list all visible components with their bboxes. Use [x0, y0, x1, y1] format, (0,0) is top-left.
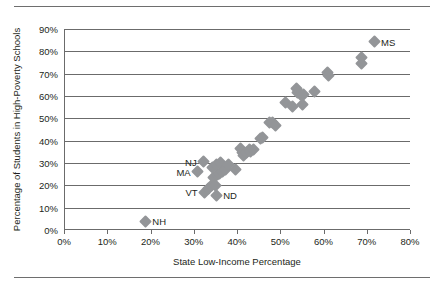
y-tick-label: 60% — [39, 91, 58, 102]
x-tick-label: 70% — [357, 236, 376, 247]
y-tick-label: 0% — [44, 225, 58, 236]
gridline-y-20% — [64, 185, 410, 186]
y-tick-label: 20% — [39, 180, 58, 191]
gridline-y-80% — [64, 51, 410, 52]
x-tick-mark — [237, 230, 238, 234]
x-tick-mark — [64, 230, 65, 234]
plot-area: 0%10%20%30%40%50%60%70%80%90% 0%10%20%30… — [64, 29, 410, 230]
data-point-label-ND: ND — [223, 190, 237, 201]
x-tick-mark — [107, 230, 108, 234]
y-tick-label: 80% — [39, 46, 58, 57]
x-tick-mark — [324, 230, 325, 234]
x-tick-label: 60% — [314, 236, 333, 247]
x-axis-title-text: State Low-Income Percentage — [173, 256, 301, 267]
x-tick-mark — [194, 230, 195, 234]
x-tick-label: 50% — [271, 236, 290, 247]
y-tick-label: 70% — [39, 68, 58, 79]
data-point-label-MA: MA — [176, 166, 190, 177]
x-tick-mark — [151, 230, 152, 234]
gridline-y-90% — [64, 29, 410, 30]
gridline-y-70% — [64, 74, 410, 75]
y-axis-title-text: Percentage of Students in High-Poverty S… — [12, 28, 23, 231]
x-tick-mark — [410, 230, 411, 234]
bottom-divider-rule — [14, 277, 430, 278]
y-tick-label: 50% — [39, 113, 58, 124]
y-tick-label: 10% — [39, 202, 58, 213]
gridline-y-40% — [64, 141, 410, 142]
data-point-label-NH: NH — [152, 216, 166, 227]
chart-figure: Percentage of Students in High-Poverty S… — [0, 0, 443, 288]
x-tick-label: 20% — [141, 236, 160, 247]
data-point-NH[interactable] — [139, 215, 152, 228]
x-tick-label: 80% — [400, 236, 419, 247]
data-point-label-VT: VT — [185, 187, 197, 198]
data-point-label-MS: MS — [381, 36, 395, 47]
data-point-MS[interactable] — [368, 35, 381, 48]
y-tick-label: 40% — [39, 135, 58, 146]
x-tick-mark — [367, 230, 368, 234]
y-axis-line — [64, 29, 65, 230]
top-divider-rule — [14, 6, 430, 7]
y-axis-title: Percentage of Students in High-Poverty S… — [10, 29, 24, 230]
y-tick-label: 90% — [39, 24, 58, 35]
x-tick-label: 30% — [184, 236, 203, 247]
x-tick-label: 10% — [98, 236, 117, 247]
y-tick-label: 30% — [39, 158, 58, 169]
x-tick-mark — [280, 230, 281, 234]
gridline-y-60% — [64, 96, 410, 97]
x-axis-title: State Low-Income Percentage — [64, 256, 410, 267]
x-tick-label: 40% — [227, 236, 246, 247]
data-point-label-NJ: NJ — [185, 156, 197, 167]
gridline-y-50% — [64, 118, 410, 119]
gridline-y-10% — [64, 208, 410, 209]
x-tick-label: 0% — [57, 236, 71, 247]
